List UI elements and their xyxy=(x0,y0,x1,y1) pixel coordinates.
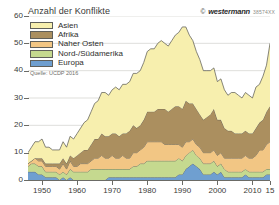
legend-swatch xyxy=(30,60,53,68)
x-tick-label: 1970 xyxy=(97,186,127,195)
y-tick-label: 40 xyxy=(3,66,23,74)
legend-swatch xyxy=(30,50,53,58)
y-tick-label: 0 xyxy=(3,176,23,184)
legend-item: Afrika xyxy=(30,30,123,39)
copyright-symbol: © xyxy=(200,8,205,15)
y-tick-mark xyxy=(24,125,29,126)
x-tick-mark xyxy=(252,181,253,185)
legend-label: Europa xyxy=(58,59,84,67)
chart-legend: AsienAfrikaNaher OstenNord-/SüdamerikaEu… xyxy=(30,21,123,68)
publisher-mark: © westermann 38574XX xyxy=(200,7,275,16)
x-tick-mark xyxy=(112,181,113,185)
y-tick-label: 30 xyxy=(3,94,23,102)
legend-item: Europa xyxy=(30,59,123,68)
legend-label: Afrika xyxy=(58,31,78,39)
y-tick-label: 20 xyxy=(3,121,23,129)
legend-label: Naher Osten xyxy=(58,40,103,48)
legend-label: Nord-/Südamerika xyxy=(58,50,123,58)
y-tick-mark xyxy=(24,180,29,181)
y-tick-mark xyxy=(24,16,29,17)
x-tick-label: 15 xyxy=(255,186,279,195)
publisher-name: westermann xyxy=(208,7,250,16)
x-tick-mark xyxy=(217,181,218,185)
x-tick-mark xyxy=(270,181,271,185)
chart-page: Anzahl der Konflikte © westermann 38574X… xyxy=(0,0,279,205)
legend-label: Asien xyxy=(58,22,78,30)
x-tick-label: 2000 xyxy=(202,186,232,195)
x-tick-mark xyxy=(147,181,148,185)
y-tick-mark xyxy=(24,71,29,72)
x-tick-label: 1950 xyxy=(27,186,57,195)
x-tick-label: 1980 xyxy=(132,186,162,195)
legend-item: Naher Osten xyxy=(30,40,123,49)
y-tick-mark xyxy=(24,98,29,99)
x-tick-label: 1960 xyxy=(62,186,92,195)
y-axis-labels: 0102030405060 xyxy=(0,0,23,205)
x-tick-mark xyxy=(42,181,43,185)
y-tick-label: 60 xyxy=(3,12,23,20)
y-tick-mark xyxy=(24,43,29,44)
legend-swatch xyxy=(30,22,53,30)
legend-item: Asien xyxy=(30,21,123,30)
legend-swatch xyxy=(30,41,53,49)
legend-item: Nord-/Südamerika xyxy=(30,49,123,58)
y-tick-mark xyxy=(24,153,29,154)
x-tick-mark xyxy=(182,181,183,185)
page-title: Anzahl der Konflikte xyxy=(28,6,110,16)
source-note: Quelle: UCDP 2016 xyxy=(30,70,78,76)
publisher-code: 38574XX xyxy=(253,9,275,15)
legend-swatch xyxy=(30,31,53,39)
x-tick-mark xyxy=(77,181,78,185)
x-tick-label: 1990 xyxy=(167,186,197,195)
x-axis-line xyxy=(28,180,270,181)
y-tick-label: 50 xyxy=(3,39,23,47)
y-tick-label: 10 xyxy=(3,148,23,156)
